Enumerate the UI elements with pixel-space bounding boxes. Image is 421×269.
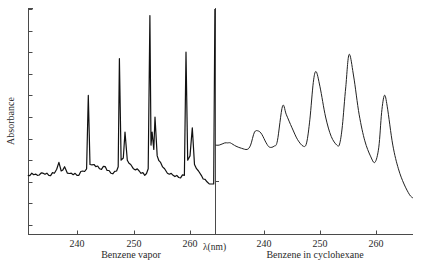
y-axis-ticks	[29, 10, 33, 226]
left-x-axis-label: Benzene vapor	[101, 249, 161, 260]
right-x-axis-label: Benzene in cyclohexane	[266, 249, 364, 260]
left-tick-250: 250	[127, 238, 142, 249]
y-axis-label: Absorbance	[5, 97, 16, 145]
x-axis-ticks	[78, 231, 377, 235]
wavelength-unit-label: λ(nm)	[203, 242, 226, 253]
benzene-uv-spectra-figure: Absorbance 240 250 260 Benzene vapor λ(n…	[0, 0, 421, 269]
right-tick-260: 260	[369, 238, 384, 249]
left-tick-240: 240	[70, 238, 85, 249]
benzene-vapor-spectrum-line	[28, 9, 215, 184]
right-tick-240: 240	[257, 238, 272, 249]
benzene-cyclohexane-spectrum-line	[215, 54, 413, 198]
right-tick-250: 250	[313, 238, 328, 249]
axes	[28, 8, 413, 235]
left-tick-260: 260	[183, 238, 198, 249]
